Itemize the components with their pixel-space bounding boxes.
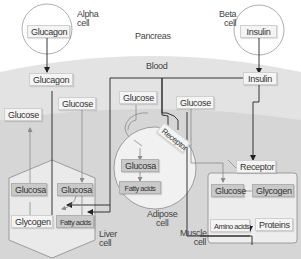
alpha-cell-label: Alpha cell	[77, 10, 99, 28]
pancreas-label: Pancreas	[135, 32, 171, 41]
adipose-glucosa: Glucosa	[121, 159, 159, 172]
muscle-cell-label: Muscle cell	[180, 229, 206, 247]
liver-glucosa-left: Glucosa	[11, 183, 47, 196]
liver-cell-label-line2: cell	[99, 239, 117, 248]
blood-glucose-left: Glucose	[4, 108, 42, 121]
blood-glucose-muscle: Glucose	[176, 96, 214, 109]
blood-label: Blood	[146, 62, 168, 71]
adipose-fatty-acids: Fatty acids	[119, 181, 161, 194]
liver-cell-label: Liver cell	[99, 230, 117, 248]
liver-glucosa-right: Glucosa	[57, 183, 93, 196]
muscle-glycogen: Glycogen	[252, 184, 294, 197]
beta-cell-insulin: Insulin	[240, 25, 277, 38]
muscle-amino-acids: Amino acids	[210, 219, 250, 232]
muscle-cell-label-line2: cell	[180, 238, 206, 247]
beta-cell-label: Beta cell	[219, 10, 236, 28]
blood-glucose-adipose: Glucose	[119, 91, 157, 104]
muscle-proteins: Proteins	[255, 218, 293, 231]
pancreas-hormone-diagram: Alpha cell Pancreas Beta cell Blood Gluc…	[0, 0, 301, 259]
muscle-glucose: Glucose	[211, 184, 244, 197]
blood-glucagon: Glucagon	[29, 73, 73, 86]
alpha-cell-label-line2: cell	[77, 19, 99, 28]
liver-glycogen: Glycogen	[11, 215, 53, 228]
beta-cell-label-line2: cell	[219, 19, 236, 28]
muscle-receptor: Receptor	[236, 160, 276, 173]
alpha-cell-glucagon: Glucagon	[27, 25, 70, 38]
adipose-cell-label: Adipose cell	[147, 210, 177, 228]
adipose-cell-label-line2: cell	[147, 219, 177, 228]
liver-fatty-acids: Fatty acids	[56, 215, 94, 228]
blood-insulin: Insulin	[243, 72, 277, 85]
blood-glucose-liver: Glucose	[58, 97, 96, 110]
